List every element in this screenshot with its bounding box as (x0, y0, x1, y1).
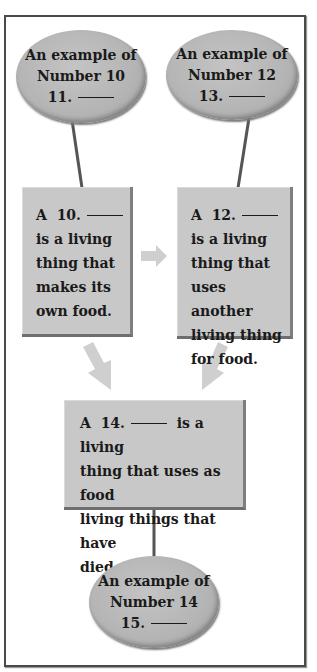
arrow-down-right-icon (83, 342, 111, 390)
example-ellipse-10: An example of Number 10 11. (16, 30, 146, 123)
blank-line (242, 215, 278, 216)
box-text-line: own food. (36, 299, 130, 323)
connector-line-12 (238, 118, 249, 188)
arrow-right-icon (141, 245, 167, 267)
answer-blank-10[interactable]: A 10. (36, 203, 130, 227)
box-text-line: living thing (191, 323, 290, 347)
box-text-line: uses another (191, 275, 290, 323)
box-text-line: thing that uses as food (80, 459, 243, 507)
ellipse-line2: Number 10 (37, 66, 125, 87)
answer-blank-12[interactable]: A 12. (191, 203, 290, 227)
example-ellipse-12: An example of Number 12 13. (166, 30, 298, 120)
blank-line (151, 623, 187, 624)
decomposer-box: A 14. is a living thing that uses as foo… (64, 400, 246, 510)
ellipse-line2: Number 12 (188, 65, 276, 86)
box-text-line: is a living (191, 227, 290, 251)
box-text-line: makes its (36, 275, 130, 299)
consumer-box: A 12. is a living thing that uses anothe… (177, 187, 293, 339)
producer-box: A 10. is a living thing that makes its o… (22, 187, 133, 337)
answer-blank-14[interactable]: A 14. is a living (80, 411, 243, 459)
answer-blank-11[interactable]: 11. (48, 87, 114, 108)
example-ellipse-14: An example of Number 14 15. (89, 556, 219, 648)
blank-line (78, 97, 114, 98)
answer-blank-15[interactable]: 15. (121, 613, 187, 634)
blank-line (229, 96, 265, 97)
ellipse-line2: Number 14 (110, 592, 198, 613)
box-text-line: thing that (191, 251, 290, 275)
ellipse-line1: An example of (25, 45, 136, 66)
connector-line-10 (72, 120, 82, 188)
blank-line (131, 423, 167, 424)
answer-blank-13[interactable]: 13. (199, 86, 265, 107)
blank-line (87, 215, 123, 216)
ellipse-line1: An example of (176, 44, 287, 65)
box-text-line: for food. (191, 347, 290, 371)
ellipse-line1: An example of (98, 571, 209, 592)
box-text-line: is a living (36, 227, 130, 251)
box-text-line: living things that have (80, 507, 243, 555)
box-text-line: thing that (36, 251, 130, 275)
